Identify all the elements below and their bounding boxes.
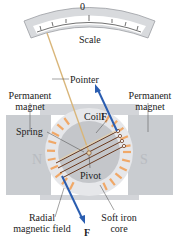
scale-zero-label: 0 — [80, 1, 85, 12]
force-label-bottom: F — [84, 227, 90, 238]
magnet-right — [128, 115, 173, 195]
field-line — [48, 158, 56, 160]
north-pole-label: N — [32, 154, 42, 165]
south-pole-label: S — [140, 154, 148, 165]
force-label-top: F — [101, 111, 107, 122]
radial-field-label: Radial magnetic field — [8, 212, 76, 234]
soft-iron-core-label: Soft iron core — [98, 212, 140, 234]
pivot-label: Pivot — [80, 170, 101, 181]
scale-label: Scale — [79, 34, 101, 45]
pivot — [87, 151, 91, 155]
pointer-label: Pointer — [70, 74, 99, 85]
magnet-left-label: Permanent magnet — [6, 90, 54, 112]
force-arrowhead-bottom — [79, 215, 85, 224]
spring-label: Spring — [16, 126, 43, 137]
coil-label: Coil — [84, 111, 101, 122]
force-arrowhead-top — [95, 84, 101, 93]
magnet-right-label: Permanent magnet — [125, 90, 175, 112]
